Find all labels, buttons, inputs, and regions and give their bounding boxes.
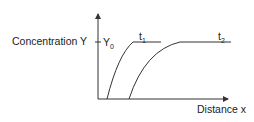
t2-label: t2	[218, 30, 225, 44]
curve-t1	[107, 42, 161, 99]
x-axis-label: Distance x	[197, 103, 246, 115]
curve-t2	[129, 42, 231, 99]
t1-label: t1	[139, 30, 146, 44]
y-axis-label: Concentration Y	[12, 35, 87, 47]
y0-label: Y0	[103, 36, 114, 50]
